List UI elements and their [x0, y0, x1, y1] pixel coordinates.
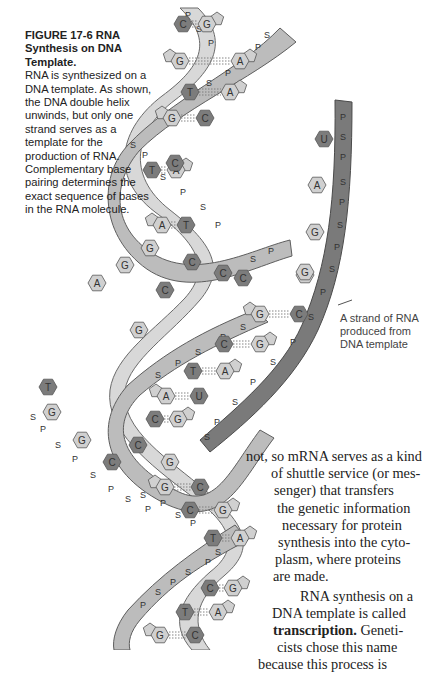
sugar-label: S [206, 78, 212, 88]
svg-text:G: G [256, 309, 264, 320]
base-g: G [296, 264, 314, 280]
rna-label-pointer [338, 300, 352, 305]
svg-text:G: G [166, 457, 174, 468]
svg-text:C: C [196, 482, 203, 493]
body-line: the genetic information [277, 500, 410, 517]
sugar-label: S [215, 547, 221, 557]
svg-text:T: T [190, 366, 196, 377]
body-line: synthesis into the cyto- [278, 534, 410, 551]
svg-text:G: G [48, 407, 56, 418]
base-g: G [306, 224, 324, 240]
svg-text:C: C [239, 273, 246, 284]
phosphate-label: P [208, 38, 214, 48]
sugar-label: S [185, 567, 191, 577]
sugar-label: S [155, 587, 161, 597]
svg-text:C: C [220, 339, 227, 350]
base-g: G [214, 502, 232, 518]
svg-text:G: G [135, 325, 143, 336]
base-g: G [130, 322, 148, 338]
svg-text:T: T [183, 220, 189, 231]
svg-text:T: T [45, 382, 51, 393]
sugar-label: S [232, 397, 238, 407]
base-g: G [251, 336, 269, 352]
sugar-label: S [340, 132, 346, 142]
body-line: of shuttle service (or mes- [271, 465, 420, 482]
sugar-label: S [125, 494, 131, 504]
base-g: G [116, 257, 134, 273]
svg-text:T: T [187, 87, 193, 98]
base-a: A [216, 363, 234, 379]
sugar-label: S [264, 30, 270, 40]
svg-text:G: G [256, 339, 264, 350]
base-t: T [204, 530, 222, 546]
base-t: T [176, 604, 194, 620]
base-t: T [184, 363, 202, 379]
svg-text:G: G [156, 630, 164, 641]
base-g: G [251, 306, 269, 322]
svg-text:G: G [203, 19, 211, 30]
base-a: A [231, 53, 249, 69]
sugar-label: S [140, 490, 146, 500]
svg-text:T: T [210, 533, 216, 544]
base-g: G [151, 627, 169, 643]
body-line: necessary for protein [282, 517, 402, 534]
body-line: cists chose this name [277, 639, 397, 656]
svg-text:T: T [182, 607, 188, 618]
figure-caption: FIGURE 17-6 RNA Synthesis on DNA Templat… [25, 29, 155, 217]
base-g: G [169, 411, 187, 427]
svg-text:C: C [179, 19, 186, 30]
phosphate-label: P [190, 518, 196, 528]
svg-text:C: C [161, 285, 168, 296]
svg-text:C: C [201, 113, 208, 124]
svg-text:A: A [314, 180, 321, 191]
body-line: senger) that transfers [274, 482, 412, 499]
base-g: G [163, 110, 181, 126]
base-a: A [231, 530, 249, 546]
base-g: G [198, 16, 216, 32]
base-c: C [214, 265, 232, 281]
base-t: T [39, 379, 57, 395]
svg-text:A: A [215, 607, 222, 618]
sugar-label: S [340, 177, 346, 187]
phosphate-label: P [334, 242, 340, 252]
sugar-label: S [160, 172, 166, 182]
base-a: A [153, 217, 171, 233]
svg-text:C: C [206, 583, 213, 594]
svg-text:C: C [134, 440, 141, 451]
base-c: C [201, 580, 219, 596]
phosphate-label: P [140, 600, 146, 610]
base-a: A [308, 177, 326, 193]
phosphate-label: P [214, 417, 220, 427]
base-c: C [191, 479, 209, 495]
phosphate-label: P [215, 220, 221, 230]
body-line: are made. [273, 568, 329, 585]
svg-text:A: A [222, 366, 229, 377]
phosphate-label: P [250, 377, 256, 387]
phosphate-label: P [340, 112, 346, 122]
sugar-label: S [155, 370, 161, 380]
body-line: DNA template is called [272, 605, 406, 622]
base-a: A [209, 604, 227, 620]
base-g: G [141, 240, 159, 256]
svg-text:C: C [188, 257, 195, 268]
phosphate-label: P [175, 358, 181, 368]
svg-text:A: A [94, 278, 101, 289]
svg-text:C: C [151, 414, 158, 425]
base-c: C [156, 282, 174, 298]
base-g: G [156, 479, 174, 495]
svg-text:A: A [237, 533, 244, 544]
base-c: C [234, 270, 252, 286]
body-line: plasm, where proteins [275, 551, 401, 568]
sugar-label: S [204, 432, 210, 442]
phosphate-label: P [40, 424, 46, 434]
base-a: A [221, 84, 239, 100]
body-line: transcription. Geneti- [273, 622, 403, 639]
sugar-label: S [329, 264, 335, 274]
base-c: C [215, 336, 233, 352]
phosphate-label: P [339, 197, 345, 207]
base-g: G [43, 404, 61, 420]
phosphate-label: P [340, 152, 346, 162]
svg-text:A: A [237, 56, 244, 67]
base-c: C [181, 502, 199, 518]
svg-text:C: C [186, 505, 193, 516]
